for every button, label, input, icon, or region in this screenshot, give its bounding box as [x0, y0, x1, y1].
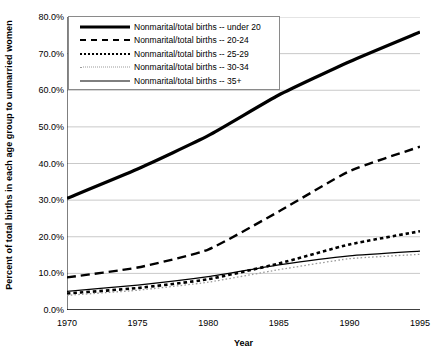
- series-line: [67, 231, 420, 293]
- legend-item-label: Nonmarital/total births -- under 20: [134, 23, 261, 32]
- y-tick-label: 60.0%: [20, 85, 64, 95]
- legend-line-sample-icon: [78, 21, 132, 33]
- y-tick-label: 20.0%: [20, 232, 64, 242]
- legend-item-label: Nonmarital/total births -- 30-34: [134, 63, 249, 72]
- legend-item-label: Nonmarital/total births -- 25-29: [134, 50, 249, 59]
- y-tick-label: 50.0%: [20, 122, 64, 132]
- legend-item[interactable]: Nonmarital/total births -- 25-29: [69, 47, 279, 61]
- y-tick-label: 30.0%: [20, 195, 64, 205]
- legend-item-label: Nonmarital/total births -- 20-24: [134, 36, 249, 45]
- series-line: [67, 147, 420, 278]
- x-tick-label: 1975: [115, 318, 161, 328]
- legend-item[interactable]: Nonmarital/total births -- 30-34: [69, 61, 279, 75]
- legend-line-sample-icon: [78, 75, 132, 87]
- y-tick-label: 10.0%: [20, 268, 64, 278]
- legend-line-sample-icon: [78, 48, 132, 60]
- legend-item[interactable]: Nonmarital/total births -- under 20: [69, 20, 279, 34]
- legend-item[interactable]: Nonmarital/total births -- 20-24: [69, 34, 279, 48]
- y-axis-tick-labels: 0.0%10.0%20.0%30.0%40.0%50.0%60.0%70.0%8…: [16, 0, 64, 362]
- y-tick-label: 40.0%: [20, 159, 64, 169]
- legend-item[interactable]: Nonmarital/total births -- 35+: [69, 74, 279, 88]
- chart-legend: Nonmarital/total births -- under 20Nonma…: [68, 16, 280, 90]
- y-tick-label: 70.0%: [20, 49, 64, 59]
- x-tick-label: 1970: [44, 318, 90, 328]
- x-axis-title: Year: [67, 338, 420, 348]
- legend-line-sample-icon: [78, 61, 132, 73]
- legend-line-sample-icon: [78, 34, 132, 46]
- series-line: [67, 251, 420, 291]
- x-tick-label: 1995: [397, 318, 434, 328]
- x-tick-label: 1990: [326, 318, 372, 328]
- legend-item-label: Nonmarital/total births -- 35+: [134, 77, 241, 86]
- x-tick-label: 1980: [185, 318, 231, 328]
- chart-figure: Percent of total births in each age grou…: [0, 0, 434, 362]
- y-tick-label: 80.0%: [20, 12, 64, 22]
- y-tick-label: 0.0%: [20, 305, 64, 315]
- x-tick-label: 1985: [256, 318, 302, 328]
